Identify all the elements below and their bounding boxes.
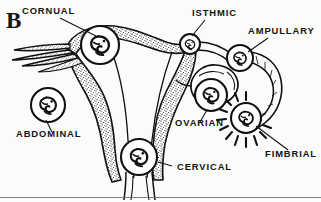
implantation-site-cervical (121, 139, 157, 175)
implantation-site-ovarian (195, 79, 227, 111)
implantation-site-ampullary (227, 45, 253, 71)
label-cervical: CERVICAL (177, 161, 232, 172)
label-cornual: CORNUAL (22, 5, 75, 16)
label-ampullary: AMPULLARY (248, 25, 315, 36)
ectopic-pregnancy-figure: B CORNUAL ISTHMIC AMPULLARY ABDOMINAL OV… (0, 0, 321, 202)
implantation-site-abdominal (31, 88, 65, 122)
implantation-site-fimbrial (231, 103, 261, 133)
label-fimbrial: FIMBRIAL (265, 148, 317, 159)
label-ovarian: OVARIAN (175, 117, 224, 128)
panel-letter: B (6, 8, 21, 33)
anatomy-illustration: B CORNUAL ISTHMIC AMPULLARY ABDOMINAL OV… (0, 0, 321, 202)
label-isthmic: ISTHMIC (192, 7, 237, 18)
label-abdominal: ABDOMINAL (16, 128, 81, 139)
implantation-site-isthmic (180, 34, 200, 54)
